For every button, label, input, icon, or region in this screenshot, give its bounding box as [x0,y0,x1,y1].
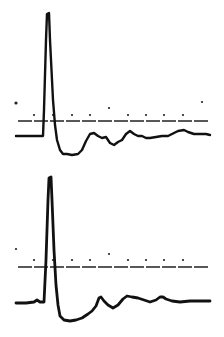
time-marker-dot [127,114,129,116]
time-marker-dot [163,259,165,261]
time-marker-dot [89,259,91,261]
time-marker-dot [33,259,35,261]
time-marker-dot [201,101,203,103]
lower-trace [16,177,210,321]
lower-time-markers [15,248,184,261]
time-marker-dot [89,114,91,116]
time-marker-dot [145,259,147,261]
upper-trace [16,13,210,155]
upper-trace-panel [14,13,210,155]
time-marker-dot [15,248,17,250]
time-marker-dot [163,114,165,116]
recording-figure [0,0,224,337]
time-marker-dot [182,259,184,261]
time-marker-dot [108,253,110,255]
time-marker-dot [108,107,110,109]
time-marker-dot [14,101,17,104]
time-marker-dot [182,114,184,116]
time-marker-dot [33,114,35,116]
time-marker-dot [127,259,129,261]
time-marker-dot [145,114,147,116]
time-marker-dot [71,259,73,261]
lower-trace-panel [15,177,210,321]
time-marker-dot [71,114,73,116]
